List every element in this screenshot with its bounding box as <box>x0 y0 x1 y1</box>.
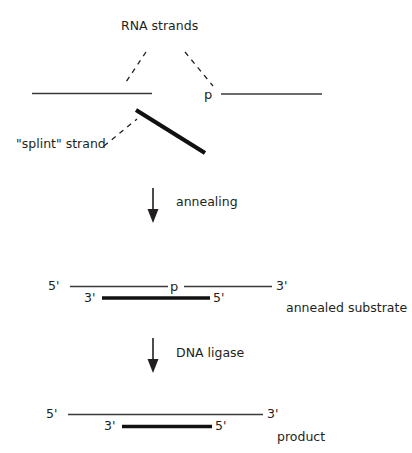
arrow-annealing-head <box>148 209 159 223</box>
leader-line-splint <box>104 119 137 146</box>
product-top-right-end: 3' <box>267 408 278 421</box>
caption-product: product <box>277 431 325 444</box>
leader-line-rna-left <box>124 52 146 85</box>
substrate-top-right-end: 3' <box>276 280 287 293</box>
product-top-left-end: 5' <box>46 408 57 421</box>
caption-annealed-substrate: annealed substrate <box>286 302 407 315</box>
diagram-canvas <box>0 0 412 453</box>
substrate-bottom-left-end: 3' <box>84 292 95 305</box>
stage-ligated-product <box>68 415 263 427</box>
arrow-dna-ligase <box>148 338 159 373</box>
label-splint-strand: "splint" strand <box>16 138 106 151</box>
arrow-ligase-head <box>148 359 159 373</box>
arrow-annealing <box>148 188 159 223</box>
substrate-phosphate: p <box>170 280 178 293</box>
substrate-bottom-right-end: 5' <box>213 292 224 305</box>
label-dna-ligase: DNA ligase <box>176 347 244 360</box>
product-bottom-right-end: 5' <box>215 420 226 433</box>
splint-strand <box>136 110 205 153</box>
rna-ligation-diagram: RNA strands p "splint" strand annealing … <box>0 0 412 453</box>
substrate-top-left-end: 5' <box>48 280 59 293</box>
leader-line-rna-right <box>185 52 213 86</box>
product-bottom-left-end: 3' <box>104 420 115 433</box>
label-phosphate-top: p <box>204 88 212 101</box>
label-annealing: annealing <box>176 196 238 209</box>
label-rna-strands: RNA strands <box>121 20 198 33</box>
